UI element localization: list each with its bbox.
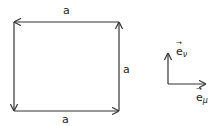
- vector-arrow-icon: →: [176, 40, 182, 47]
- bottom-side-label: a: [62, 114, 69, 125]
- top-side-label: a: [63, 5, 70, 16]
- vector-arrow-icon: →: [196, 86, 202, 93]
- right-side-label: a: [123, 64, 130, 75]
- diagram-canvas: [0, 0, 220, 126]
- e-mu-label: → eμ: [196, 92, 208, 105]
- e-nu-label: → eν: [176, 46, 187, 59]
